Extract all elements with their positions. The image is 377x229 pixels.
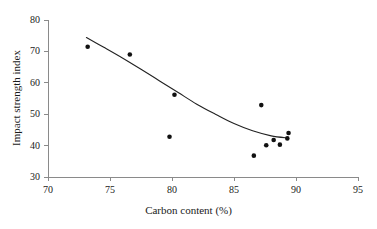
data-point (286, 131, 291, 136)
data-point (167, 135, 172, 140)
x-tick-label: 90 (291, 185, 301, 195)
x-tick-label: 70 (43, 185, 53, 195)
plot-canvas (0, 0, 377, 229)
data-point (285, 136, 290, 141)
y-tick-label: 80 (0, 15, 40, 25)
data-point (172, 92, 177, 97)
data-point-group (85, 44, 290, 158)
scatter-chart-figure: 707580859095 304050607080 Carbon content… (0, 0, 377, 229)
data-point (259, 103, 264, 108)
data-point (128, 52, 133, 57)
y-axis-title: Impact strength index (10, 38, 22, 158)
x-tick-label: 80 (167, 185, 177, 195)
x-tick-label: 95 (353, 185, 363, 195)
data-point (278, 142, 283, 147)
x-axis-title: Carbon content (%) (0, 204, 377, 216)
x-tick-label: 85 (229, 185, 239, 195)
data-point (264, 143, 269, 148)
tick-marks (44, 20, 358, 181)
data-point (252, 153, 257, 158)
data-point (85, 44, 90, 49)
data-point (271, 138, 276, 143)
axis-lines (48, 20, 358, 177)
x-tick-label: 75 (105, 185, 115, 195)
fit-trend-line (86, 38, 288, 138)
y-tick-label: 30 (0, 172, 40, 182)
